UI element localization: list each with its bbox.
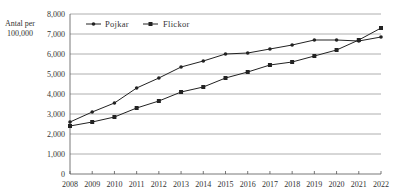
data-point-square xyxy=(290,60,294,64)
legend-square-marker-icon xyxy=(149,22,153,26)
data-point-square xyxy=(268,63,272,67)
x-tick-label: 2011 xyxy=(129,180,145,189)
x-tick-label: 2021 xyxy=(351,180,367,189)
y-tick-label: 0 xyxy=(61,170,65,179)
y-axis-ticks: 01,0002,0003,0004,0005,0006,0007,0008,00… xyxy=(47,10,65,179)
x-tick-label: 2017 xyxy=(262,180,278,189)
data-point-circle xyxy=(90,110,94,114)
data-point-square xyxy=(135,106,139,110)
data-series xyxy=(68,26,383,128)
y-tick-label: 8,000 xyxy=(47,10,65,19)
legend-label: Pojkar xyxy=(105,19,129,29)
data-point-circle xyxy=(224,52,228,56)
y-tick-label: 2,000 xyxy=(47,130,65,139)
y-axis-label-line-2: 100,000 xyxy=(7,29,33,38)
data-point-circle xyxy=(157,76,161,80)
y-tick-label: 3,000 xyxy=(47,110,65,119)
x-tick-label: 2019 xyxy=(306,180,322,189)
x-tick-label: 2018 xyxy=(284,180,300,189)
data-point-square xyxy=(179,90,183,94)
legend-circle-marker-icon xyxy=(92,22,96,26)
data-point-circle xyxy=(335,38,339,42)
line-chart: Antal per 100,000 01,0002,0003,0004,0005… xyxy=(0,0,396,193)
y-tick-label: 4,000 xyxy=(47,90,65,99)
data-point-circle xyxy=(290,43,294,47)
data-point-circle xyxy=(268,47,272,51)
x-tick-label: 2014 xyxy=(195,180,211,189)
y-tick-label: 5,000 xyxy=(47,70,65,79)
data-point-circle xyxy=(379,35,383,39)
data-point-square xyxy=(335,48,339,52)
gridlines xyxy=(70,14,381,154)
data-point-square xyxy=(112,115,116,119)
x-tick-label: 2020 xyxy=(329,180,345,189)
data-point-circle xyxy=(246,51,250,55)
x-tick-label: 2012 xyxy=(151,180,167,189)
x-tick-label: 2022 xyxy=(373,180,389,189)
data-point-square xyxy=(68,124,72,128)
legend-item-flickor: Flickor xyxy=(143,19,190,29)
data-point-square xyxy=(246,70,250,74)
x-tick-label: 2010 xyxy=(106,180,122,189)
data-point-square xyxy=(90,120,94,124)
y-tick-label: 6,000 xyxy=(47,50,65,59)
data-point-circle xyxy=(179,65,183,69)
data-point-circle xyxy=(135,86,139,90)
legend-label: Flickor xyxy=(163,19,190,29)
data-point-square xyxy=(379,26,383,30)
data-point-circle xyxy=(113,101,117,105)
y-axis-label: Antal per 100,000 xyxy=(5,19,35,38)
x-tick-label: 2015 xyxy=(218,180,234,189)
legend: PojkarFlickor xyxy=(86,19,190,29)
data-point-circle xyxy=(313,38,317,42)
data-point-square xyxy=(312,54,316,58)
data-point-circle xyxy=(68,120,72,124)
data-point-circle xyxy=(201,59,205,63)
y-tick-label: 1,000 xyxy=(47,150,65,159)
legend-item-pojkar: Pojkar xyxy=(86,19,129,29)
data-point-square xyxy=(357,38,361,42)
x-tick-label: 2016 xyxy=(240,180,256,189)
data-point-square xyxy=(224,76,228,80)
y-axis-label-line-1: Antal per xyxy=(5,19,35,28)
x-tick-label: 2008 xyxy=(62,180,78,189)
data-point-square xyxy=(201,85,205,89)
x-tick-label: 2009 xyxy=(84,180,100,189)
x-tick-label: 2013 xyxy=(173,180,189,189)
y-tick-label: 7,000 xyxy=(47,30,65,39)
data-point-square xyxy=(157,99,161,103)
